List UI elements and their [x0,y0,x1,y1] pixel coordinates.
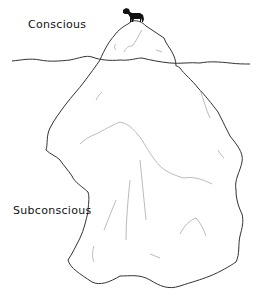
iceberg-drawing [0,0,264,298]
waterline [12,56,250,64]
iceberg-tip [100,21,176,66]
label-conscious: Conscious [28,18,86,31]
iceberg-diagram: Conscious Subconscious [0,0,264,298]
horse-icon [123,8,144,22]
shading-lines [80,30,224,262]
label-subconscious: Subconscious [13,204,92,217]
iceberg-submerged [46,60,243,288]
